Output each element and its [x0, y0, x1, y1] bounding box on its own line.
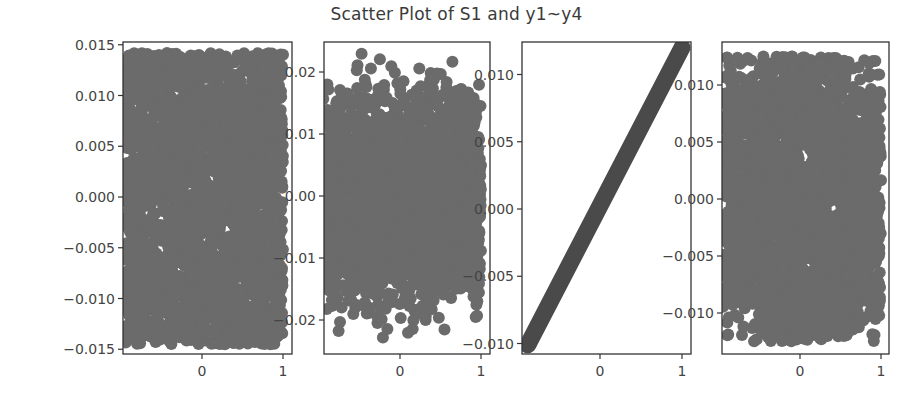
y-tick-label: 0.02	[285, 64, 316, 80]
scatter-points	[119, 47, 289, 350]
subplot-y2: 010.020.010.00−0.01−0.02	[273, 42, 490, 379]
subplot-y4: 010.0100.0050.000−0.005−0.010	[662, 42, 889, 379]
linear-scatter-band	[528, 48, 682, 345]
y-tick-label: −0.010	[63, 291, 115, 307]
x-tick-label: 1	[477, 363, 486, 379]
figure: Scatter Plot of S1 and y1~y4 010.0150.01…	[0, 0, 913, 394]
y-tick-label: 0.00	[285, 188, 316, 204]
subplot-y1: 010.0150.0100.0050.000−0.005−0.010−0.015	[63, 37, 292, 379]
x-tick-label: 0	[796, 363, 805, 379]
y-tick-label: 0.005	[474, 134, 514, 150]
y-tick-label: 0.005	[674, 134, 714, 150]
scatter-points	[317, 48, 487, 344]
y-tick-label: 0.000	[75, 189, 115, 205]
y-tick-label: 0.010	[674, 77, 714, 93]
subplot-y3: 010.0100.0050.000−0.005−0.010	[462, 42, 691, 379]
y-tick-label: −0.010	[462, 336, 514, 352]
y-tick-label: −0.015	[63, 341, 115, 357]
x-tick-label: 0	[198, 363, 207, 379]
scatter-points	[528, 48, 682, 345]
x-tick-label: 1	[279, 363, 288, 379]
subplots-canvas: 010.0150.0100.0050.000−0.005−0.010−0.015…	[0, 0, 913, 394]
x-tick-label: 0	[396, 363, 405, 379]
y-tick-label: −0.02	[273, 312, 316, 328]
y-tick-label: −0.010	[662, 305, 714, 321]
x-tick-label: 1	[678, 363, 687, 379]
y-tick-label: −0.005	[462, 268, 514, 284]
y-tick-label: −0.005	[662, 248, 714, 264]
y-tick-label: 0.000	[474, 201, 514, 217]
y-tick-label: 0.010	[474, 67, 514, 83]
y-tick-label: −0.005	[63, 240, 115, 256]
y-tick-label: −0.01	[273, 250, 316, 266]
x-tick-label: 0	[596, 363, 605, 379]
y-tick-label: 0.01	[285, 126, 316, 142]
y-tick-label: 0.010	[75, 88, 115, 104]
y-tick-label: 0.015	[75, 37, 115, 53]
scatter-points	[717, 51, 887, 348]
y-tick-label: 0.005	[75, 138, 115, 154]
x-tick-label: 1	[877, 363, 886, 379]
y-tick-label: 0.000	[674, 191, 714, 207]
